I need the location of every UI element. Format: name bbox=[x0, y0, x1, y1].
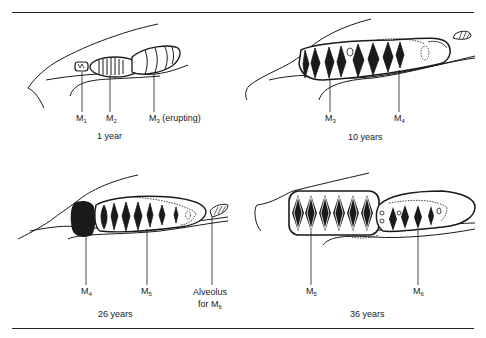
caption-10-years: 10 years bbox=[348, 132, 383, 142]
label-m1: M1 bbox=[76, 113, 87, 126]
label-m6: M6 bbox=[413, 286, 424, 299]
label-m4: M4 bbox=[394, 113, 405, 126]
bottom-rule bbox=[12, 328, 474, 329]
panel-1-year: M1 M2 M3 (erupting) 1 year bbox=[0, 0, 243, 150]
label-alveolus-for-m6: Alveolus for M6 bbox=[193, 286, 227, 313]
panel-36-years: M5 M6 36 years bbox=[243, 169, 486, 319]
label-m2: M2 bbox=[106, 113, 117, 126]
label-m4: M4 bbox=[81, 286, 92, 299]
label-m3: M3 bbox=[325, 113, 336, 126]
label-m5: M5 bbox=[141, 286, 152, 299]
jaw-molar-drawing-36-years bbox=[243, 169, 486, 319]
caption-26-years: 26 years bbox=[98, 309, 133, 319]
jaw-molar-drawing-1-year bbox=[0, 0, 243, 150]
panel-10-years: M3 M4 10 years bbox=[243, 0, 486, 150]
caption-1-year: 1 year bbox=[97, 131, 122, 141]
panel-26-years: M4 M5 Alveolus for M6 26 years bbox=[0, 169, 243, 319]
caption-36-years: 36 years bbox=[350, 309, 385, 319]
label-m3-erupting: M3 (erupting) bbox=[149, 113, 201, 126]
label-m5: M5 bbox=[306, 286, 317, 299]
jaw-molar-drawing-10-years bbox=[243, 0, 486, 150]
